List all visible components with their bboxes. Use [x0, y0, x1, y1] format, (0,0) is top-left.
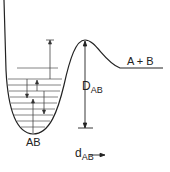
distance-symbol: d: [75, 146, 82, 160]
distance-label: dAB: [75, 146, 94, 162]
potential-curve: [4, 0, 163, 134]
dissociation-energy-symbol: D: [82, 79, 91, 93]
transition-arrows: [26, 40, 55, 133]
potential-energy-diagram: A + B AB DAB dAB: [0, 0, 170, 172]
dissociation-energy-subscript: AB: [91, 85, 103, 95]
distance-subscript: AB: [82, 152, 94, 162]
energy-levels: [8, 68, 62, 127]
products-label: A + B: [127, 55, 154, 67]
dissociation-energy-label: DAB: [82, 79, 103, 95]
molecule-label: AB: [26, 136, 41, 148]
